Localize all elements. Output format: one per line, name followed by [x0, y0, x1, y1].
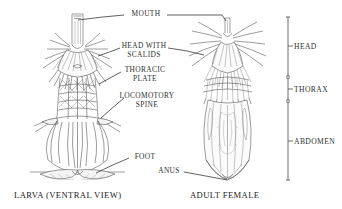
larva-mouth-cone	[72, 14, 83, 49]
larva-foot	[30, 170, 125, 180]
leader-foot	[96, 158, 129, 173]
label-head-with-scalids: HEAD WITH SCALIDS	[118, 42, 170, 59]
caption-adult-female: ADULT FEMALE	[190, 190, 260, 200]
region-brackets	[286, 17, 293, 180]
bracket-label-abdomen: ABDOMEN	[294, 137, 335, 146]
label-mouth: MOUTH	[126, 10, 166, 19]
label-foot: FOOT	[130, 153, 160, 162]
larva-abdomen	[46, 121, 108, 172]
label-thoracic-plate: THORACIC PLATE	[119, 66, 171, 83]
adult-abdomen	[204, 100, 251, 180]
bracket-label-thorax: THORAX	[294, 85, 328, 94]
leader-mouth-right	[167, 15, 226, 21]
bracket-label-head: HEAD	[294, 42, 317, 51]
label-anus: ANUS	[153, 167, 185, 176]
adult-female-drawing	[189, 18, 266, 180]
bracket-abdomen	[286, 102, 293, 180]
leader-thoracic-plate	[99, 72, 121, 84]
caption-larva: LARVA (VENTRAL VIEW)	[14, 190, 121, 200]
label-locomotory-spine: LOCOMOTORY SPINE	[117, 92, 177, 109]
larva-thoracic-plate	[57, 78, 98, 119]
larva-drawing	[30, 14, 125, 180]
bracket-thorax	[286, 78, 293, 100]
bracket-head	[286, 17, 293, 76]
anatomical-figure: MOUTH HEAD WITH SCALIDS THORACIC PLATE L…	[0, 0, 342, 209]
leader-mouth-left	[78, 15, 124, 20]
adult-mouth-cone	[223, 18, 232, 37]
